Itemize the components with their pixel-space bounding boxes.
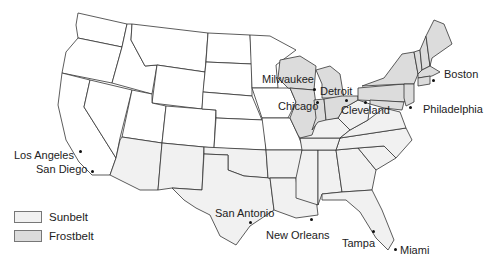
city-dot-san-diego — [91, 170, 94, 173]
city-dot-new-orleans — [310, 218, 313, 221]
city-dot-philadelphia — [409, 106, 412, 109]
legend-item-sunbelt: Sunbelt — [14, 207, 94, 226]
state-connecticut — [418, 76, 430, 86]
state-new-york — [362, 52, 418, 86]
state-new-mexico — [158, 143, 204, 190]
city-label-san-diego: San Diego — [36, 164, 87, 175]
city-label-san-antonio: San Antonio — [215, 208, 274, 219]
city-label-miami: Miami — [400, 245, 429, 256]
state-new-jersey — [404, 84, 414, 106]
legend-label-frostbelt: Frostbelt — [49, 230, 94, 242]
city-dot-miami — [394, 248, 397, 251]
city-dot-san-antonio — [249, 221, 252, 224]
state-maine — [426, 20, 452, 66]
city-dot-detroit — [345, 99, 348, 102]
city-label-philadelphia: Philadelphia — [423, 104, 483, 115]
state-south-dakota — [203, 62, 252, 96]
state-kansas — [214, 118, 266, 150]
legend: Sunbelt Frostbelt — [14, 207, 94, 245]
city-label-new-orleans: New Orleans — [266, 230, 330, 241]
city-dot-milwaukee — [313, 88, 316, 91]
city-label-chicago: Chicago — [278, 101, 318, 112]
state-colorado — [162, 106, 216, 148]
legend-swatch-frostbelt — [14, 230, 42, 242]
state-north-dakota — [206, 33, 252, 64]
legend-item-frostbelt: Frostbelt — [14, 226, 94, 245]
city-dot-los-angeles — [79, 150, 82, 153]
city-label-detroit: Detroit — [320, 86, 352, 97]
state-wyoming — [152, 65, 205, 109]
city-dot-tampa — [372, 230, 375, 233]
city-label-cleveland: Cleveland — [341, 105, 390, 116]
city-label-milwaukee: Milwaukee — [262, 74, 314, 85]
legend-label-sunbelt: Sunbelt — [49, 211, 88, 223]
city-label-los-angeles: Los Angeles — [14, 150, 74, 161]
city-label-boston: Boston — [444, 69, 478, 80]
state-pennsylvania — [358, 84, 408, 102]
city-dot-boston — [432, 79, 435, 82]
city-label-tampa: Tampa — [342, 238, 375, 249]
state-tennessee — [300, 138, 340, 150]
legend-swatch-sunbelt — [14, 211, 42, 223]
